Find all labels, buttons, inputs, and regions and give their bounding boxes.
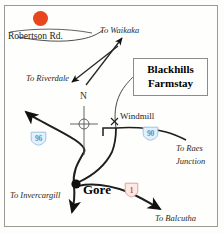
road-to-waikaka	[86, 38, 122, 85]
label-compass-north: N	[80, 92, 87, 102]
road-windmill-spur	[103, 128, 116, 136]
road-gore-to-windmill	[79, 128, 116, 182]
road-to-riverdale	[72, 46, 118, 82]
map-figure: Robertson Rd. To Waikaka To Riverdale N …	[0, 0, 224, 234]
callout-line-1: Blackhills	[147, 63, 193, 77]
route-shield-1-number: 1	[130, 186, 134, 195]
callout-blackhills-farmstay: Blackhills Farmstay	[133, 58, 208, 96]
route-shield-90: 90	[142, 126, 159, 141]
label-to-raes-junction-line1: To Raes	[176, 144, 203, 153]
road-to-invercargill	[72, 186, 74, 212]
route-shield-96: 96	[30, 131, 47, 146]
route-shield-90-number: 90	[147, 129, 154, 138]
label-to-waikaka: To Waikaka	[100, 26, 139, 35]
road-sh96-northwest	[26, 112, 84, 185]
route-shield-1: 1	[124, 182, 139, 198]
label-robertson-rd: Robertson Rd.	[8, 32, 63, 42]
label-gore: Gore	[83, 183, 111, 197]
gore-junction-node	[71, 179, 80, 188]
label-windmill: Windmill	[120, 112, 154, 121]
label-to-raes-junction-line2: Junction	[176, 157, 205, 166]
blackhills-farmstay-site-dot	[33, 11, 48, 26]
label-to-balcutha: To Balcutha	[155, 214, 196, 223]
callout-line-2: Farmstay	[148, 77, 193, 91]
label-to-riverdale: To Riverdale	[26, 74, 69, 83]
windmill-x-marker	[111, 118, 118, 125]
label-to-invercargill: To Invercargill	[10, 191, 60, 200]
compass-rose	[70, 106, 98, 155]
route-shield-96-number: 96	[35, 134, 42, 143]
